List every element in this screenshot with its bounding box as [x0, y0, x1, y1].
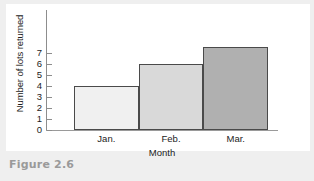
y-tick	[47, 53, 52, 54]
figure-caption: Figure 2.6	[9, 158, 74, 171]
bar	[139, 64, 204, 130]
x-axis-title: Month	[46, 147, 278, 158]
x-tick-label: Jan.	[74, 133, 139, 144]
bar	[203, 47, 268, 130]
y-tick-label: 7	[26, 48, 42, 58]
figure-container: Number of lots returned 01234567 Jan.Feb…	[0, 0, 314, 181]
y-tick-label: 5	[26, 70, 42, 80]
y-tick	[47, 75, 52, 76]
y-tick-label: 2	[26, 103, 42, 113]
y-tick-label: 3	[26, 92, 42, 102]
y-axis-line	[46, 10, 47, 131]
x-tick-label: Feb.	[139, 133, 204, 144]
y-tick	[47, 86, 52, 87]
bar	[74, 86, 139, 130]
y-tick-label: 6	[26, 59, 42, 69]
y-axis-title: Number of lots returned	[14, 4, 25, 124]
bar-chart: Number of lots returned 01234567 Jan.Feb…	[0, 0, 314, 147]
x-axis-line	[46, 130, 278, 131]
y-tick-label: 1	[26, 114, 42, 124]
y-tick	[47, 119, 52, 120]
y-tick-label: 4	[26, 81, 42, 91]
y-tick-label: 0	[26, 125, 42, 135]
x-tick-label: Mar.	[203, 133, 268, 144]
y-tick	[47, 130, 52, 131]
y-tick	[47, 108, 52, 109]
y-tick	[47, 64, 52, 65]
y-tick	[47, 97, 52, 98]
